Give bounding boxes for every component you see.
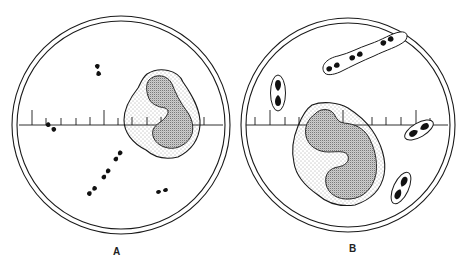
encapsulated-chain [323, 32, 407, 75]
diplococcus [86, 185, 98, 197]
panel-a [12, 16, 230, 234]
panel-label-b: B [349, 243, 356, 254]
leukocyte [293, 103, 385, 206]
leukocyte [124, 70, 200, 158]
diplococcus [156, 188, 169, 195]
capsule [402, 116, 437, 144]
capsule [271, 75, 286, 111]
diplococcus [94, 64, 101, 77]
panel-label-a: A [113, 246, 120, 257]
diplococcus [113, 150, 124, 162]
capsule [387, 169, 415, 206]
diplococcus [45, 121, 57, 132]
diplococcus [101, 168, 112, 180]
figure-canvas [0, 0, 465, 275]
panel-b [241, 18, 455, 232]
